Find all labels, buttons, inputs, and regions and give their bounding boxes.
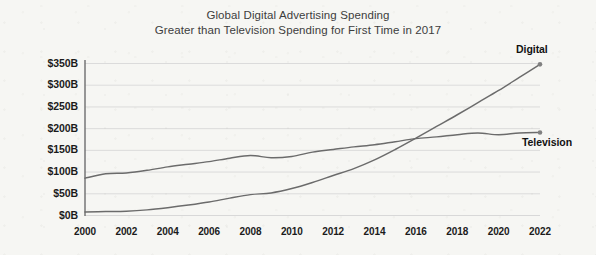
- x-axis-tick-label: 2008: [228, 226, 272, 237]
- x-axis-tick-label: 2012: [311, 226, 355, 237]
- chart-plot-area: [0, 0, 596, 255]
- series-line-television: [85, 133, 540, 179]
- y-axis-tick-label: $100B: [16, 165, 78, 177]
- x-axis-tick-label: 2014: [353, 226, 397, 237]
- x-axis-tick-label: 2000: [63, 226, 107, 237]
- y-axis-tick-label: $300B: [16, 78, 78, 90]
- y-axis-tick-label: $0B: [16, 209, 78, 221]
- x-axis-tick-label: 2004: [146, 226, 190, 237]
- y-axis-tick-label: $250B: [16, 100, 78, 112]
- endpoint-marker-television: [538, 130, 543, 135]
- gridline-group: [85, 64, 540, 216]
- series-path-group: [85, 64, 540, 212]
- x-axis-tick-label: 2018: [435, 226, 479, 237]
- x-axis-tick-label: 2006: [187, 226, 231, 237]
- y-axis-tick-label: $150B: [16, 143, 78, 155]
- series-endpoint-marker-group: [538, 62, 543, 135]
- chart-container: Global Digital Advertising Spending Grea…: [0, 0, 596, 255]
- series-line-digital: [85, 64, 540, 212]
- x-axis-tick-label: 2020: [477, 226, 521, 237]
- y-axis-tick-label: $50B: [16, 187, 78, 199]
- y-axis-tick-label: $350B: [16, 57, 78, 69]
- x-axis-tick-label: 2022: [518, 226, 562, 237]
- series-label-digital: Digital: [516, 43, 548, 55]
- endpoint-marker-digital: [538, 62, 543, 67]
- x-axis-tick-label: 2002: [104, 226, 148, 237]
- series-label-television: Television: [522, 136, 572, 148]
- x-axis-tick-label: 2016: [394, 226, 438, 237]
- y-axis-tick-label: $200B: [16, 122, 78, 134]
- x-axis-tick-label: 2010: [270, 226, 314, 237]
